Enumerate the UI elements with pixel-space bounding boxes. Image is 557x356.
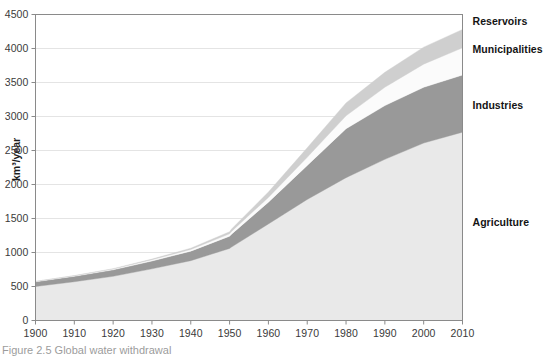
- y-tick-label: 1500: [0, 212, 29, 224]
- series-label-reservoirs: Reservoirs: [473, 15, 528, 27]
- y-tick-label: 500: [0, 280, 29, 292]
- area-bands: [36, 29, 463, 320]
- y-tick-label: 2500: [0, 144, 29, 156]
- y-tick-label: 1000: [0, 246, 29, 258]
- series-label-municipalities: Municipalities: [473, 43, 543, 55]
- y-tick-label: 4000: [0, 42, 29, 54]
- y-tick-label: 2000: [0, 178, 29, 190]
- series-label-agriculture: Agriculture: [473, 216, 530, 228]
- y-tick-label: 3500: [0, 76, 29, 88]
- y-tick-label: 0: [0, 314, 29, 326]
- series-label-industries: Industries: [473, 99, 524, 111]
- y-tick-label: 3000: [0, 110, 29, 122]
- x-tick-label: 2010: [438, 327, 488, 339]
- y-tick-label: 4500: [0, 8, 29, 20]
- figure-caption: Figure 2.5 Global water withdrawal: [2, 344, 171, 356]
